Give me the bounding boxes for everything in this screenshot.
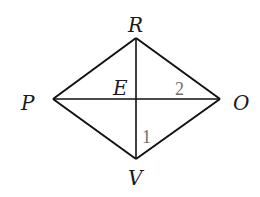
angle-label-1: 1 (142, 127, 151, 147)
vertex-label-V: V (128, 166, 145, 190)
intersection-label-E: E (112, 76, 128, 100)
edge-VP (53, 99, 136, 159)
rhombus-diagram: R P O V E 2 1 (0, 0, 260, 197)
vertex-label-R: R (127, 13, 143, 37)
vertex-label-O: O (233, 91, 249, 115)
angle-label-2: 2 (175, 79, 184, 99)
vertex-label-P: P (20, 91, 35, 115)
